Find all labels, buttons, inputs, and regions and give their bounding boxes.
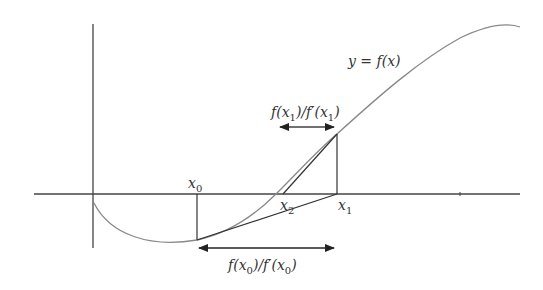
tangent-at-x0 bbox=[197, 194, 337, 240]
function-curve bbox=[94, 25, 520, 242]
x2-label: x2 bbox=[280, 197, 294, 216]
lower-step-label: f(x0)/f′(x0) bbox=[227, 257, 297, 276]
newton-method-diagram: y = f(x) x0 x1 x2 f(x1)/f′(x1) f(x0)/f′(… bbox=[0, 0, 543, 290]
tangent-at-x1 bbox=[283, 134, 337, 194]
x0-label: x0 bbox=[188, 175, 202, 194]
upper-step-label: f(x1)/f′(x1) bbox=[270, 104, 340, 123]
x1-label: x1 bbox=[338, 197, 352, 216]
curve-label: y = f(x) bbox=[347, 53, 401, 69]
